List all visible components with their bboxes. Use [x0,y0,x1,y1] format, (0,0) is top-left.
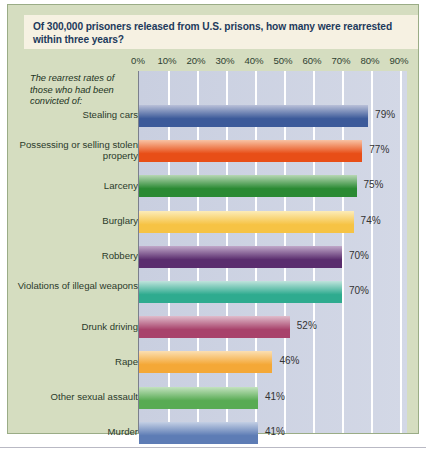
category-label-other-sexual-assault: Other sexual assault [16,391,138,402]
bar-value-label: 46% [279,355,299,366]
bar-value-label: 77% [369,144,389,155]
bar-value-label: 75% [364,179,384,190]
bar [139,246,342,268]
bar-value-label: 41% [265,391,285,402]
bar-value-label: 41% [265,426,285,437]
bar-row: 75% [139,175,407,197]
category-label-possessing-or-selling-stolen-property: Possessing or selling stolen property [16,139,138,162]
bar-row: 74% [139,211,407,233]
chart-title-box: Of 300,000 prisoners released from U.S. … [24,15,418,49]
x-axis-tick-90: 90% [381,55,417,66]
bar [139,387,258,409]
bar-row: 70% [139,281,407,303]
category-label-burglary: Burglary [16,215,138,226]
category-label-rape: Rape [16,356,138,367]
bottom-divider [0,447,426,448]
page-title: Of 300,000 prisoners released from U.S. … [33,20,409,46]
bar-row: 77% [139,140,407,162]
bar-row: 79% [139,105,407,127]
bar-value-label: 74% [361,215,381,226]
chart-subtitle: The rearrest rates of those who had been… [30,73,138,108]
plot-area: 79%77%75%74%70%70%52%46%41%41% [138,71,407,433]
category-label-robbery: Robbery [16,250,138,261]
chart-panel: Of 300,000 prisoners released from U.S. … [7,4,419,434]
bar [139,351,272,373]
category-label-stealing-cars: Stealing cars [16,109,138,120]
bar-row: 52% [139,316,407,338]
category-label-violations-of-illegal-weapons: Violations of illegal weapons [16,280,138,291]
bar [139,140,362,162]
category-label-larceny: Larceny [16,180,138,191]
bar-value-label: 70% [349,250,369,261]
bar-value-label: 70% [349,285,369,296]
bar [139,211,354,233]
bar-row: 70% [139,246,407,268]
bar [139,281,342,303]
x-axis-tick-labels: 0%10%20%30%40%50%60%70%80%90% [138,55,414,69]
bar-row: 41% [139,422,407,444]
category-label-drunk-driving: Drunk driving [16,321,138,332]
bar [139,175,357,197]
chart-figure: Of 300,000 prisoners released from U.S. … [0,0,426,437]
bar-row: 41% [139,387,407,409]
category-label-murder: Murder [16,426,138,437]
bar-value-label: 79% [375,109,395,120]
bar-value-label: 52% [297,320,317,331]
bar-row: 46% [139,351,407,373]
bar [139,422,258,444]
bar [139,316,290,338]
bar [139,105,368,127]
